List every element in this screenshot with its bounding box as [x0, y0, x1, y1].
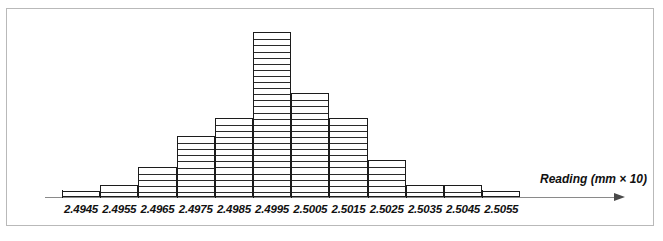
bar-unit-divider [369, 167, 405, 168]
histogram-bar [406, 185, 444, 197]
bar-unit-divider [254, 76, 290, 77]
bar-unit-divider [292, 149, 328, 150]
bar-unit-divider [178, 143, 214, 144]
histogram-bar [329, 118, 367, 197]
bar-unit-divider [330, 180, 366, 181]
bar-unit-divider [254, 45, 290, 46]
bar-unit-divider [178, 149, 214, 150]
bar-unit-divider [292, 143, 328, 144]
bar-unit-divider [178, 168, 214, 169]
bar-unit-divider [178, 155, 214, 156]
histogram-bar [482, 191, 520, 197]
bar-unit-divider [292, 113, 328, 114]
bar-unit-divider [292, 167, 328, 168]
histogram-bar [138, 167, 176, 198]
bar-unit-divider [254, 58, 290, 59]
x-axis-tick [138, 190, 139, 198]
bar-unit-divider [369, 186, 405, 187]
bar-unit-divider [216, 155, 252, 156]
histogram-bar [100, 185, 138, 197]
x-axis-tick [253, 190, 254, 198]
bar-unit-divider [254, 94, 290, 95]
bar-unit-divider [292, 119, 328, 120]
bar-unit-divider [216, 131, 252, 132]
bar-unit-divider [445, 192, 481, 193]
bar-unit-divider [369, 192, 405, 193]
bar-unit-divider [292, 192, 328, 193]
bar-unit-divider [139, 174, 175, 175]
bar-unit-divider [216, 167, 252, 168]
bar-unit-divider [292, 174, 328, 175]
bar-unit-divider [178, 186, 214, 187]
bar-unit-divider [254, 106, 290, 107]
bar-unit-divider [178, 180, 214, 181]
bar-unit-divider [292, 106, 328, 107]
bar-unit-divider [330, 167, 366, 168]
bar-unit-divider [216, 161, 252, 162]
bar-unit-divider [369, 180, 405, 181]
bar-unit-divider [330, 149, 366, 150]
x-axis-tick [62, 190, 63, 198]
bar-unit-divider [330, 186, 366, 187]
bar-unit-divider [292, 131, 328, 132]
x-axis-tick [444, 190, 445, 198]
bar-unit-divider [254, 143, 290, 144]
bar-unit-divider [330, 137, 366, 138]
bar-unit-divider [292, 125, 328, 126]
bar-unit-divider [216, 174, 252, 175]
histogram-bar [253, 32, 291, 197]
x-axis-tick [406, 190, 407, 198]
bar-unit-divider [254, 186, 290, 187]
bar-unit-divider [292, 155, 328, 156]
x-axis-tick [291, 190, 292, 198]
bar-unit-divider [330, 143, 366, 144]
histogram-plot-area: Reading (mm × 10) 2.49452.49552.49652.49… [0, 0, 663, 241]
x-axis-tick [177, 190, 178, 198]
histogram-bar [291, 93, 329, 197]
bar-unit-divider [254, 167, 290, 168]
bar-unit-divider [254, 180, 290, 181]
x-axis-tick-label: 2.5055 [475, 203, 527, 215]
bar-unit-divider [330, 125, 366, 126]
bar-unit-divider [254, 70, 290, 71]
bar-unit-divider [216, 149, 252, 150]
x-axis-tick [329, 190, 330, 198]
x-axis-tick [215, 190, 216, 198]
bar-unit-divider [292, 137, 328, 138]
bar-unit-divider [330, 192, 366, 193]
bar-unit-divider [254, 161, 290, 162]
x-axis-tick [100, 190, 101, 198]
bar-unit-divider [407, 192, 443, 193]
bar-unit-divider [178, 192, 214, 193]
x-axis-tick [482, 190, 483, 198]
x-axis-tick [368, 190, 369, 198]
bar-unit-divider [216, 137, 252, 138]
bar-unit-divider [216, 186, 252, 187]
bar-unit-divider [254, 155, 290, 156]
bar-unit-divider [139, 186, 175, 187]
bar-unit-divider [254, 82, 290, 83]
bar-unit-divider [254, 52, 290, 53]
bar-unit-divider [254, 192, 290, 193]
bar-unit-divider [254, 131, 290, 132]
histogram-bar [368, 160, 406, 197]
bar-unit-divider [254, 149, 290, 150]
histogram-bar [444, 185, 482, 197]
bar-unit-divider [254, 113, 290, 114]
bar-unit-divider [216, 180, 252, 181]
histogram-bar [177, 136, 215, 197]
bar-unit-divider [216, 192, 252, 193]
bar-unit-divider [330, 174, 366, 175]
figure-canvas: Reading (mm × 10) 2.49452.49552.49652.49… [0, 0, 663, 241]
bar-unit-divider [330, 161, 366, 162]
bar-unit-divider [369, 174, 405, 175]
bar-unit-divider [330, 131, 366, 132]
histogram-bar [215, 118, 253, 197]
bar-unit-divider [178, 174, 214, 175]
bar-unit-divider [139, 180, 175, 181]
bar-unit-divider [330, 155, 366, 156]
bar-unit-divider [292, 186, 328, 187]
bar-unit-divider [254, 119, 290, 120]
bar-unit-divider [254, 174, 290, 175]
bar-unit-divider [216, 143, 252, 144]
